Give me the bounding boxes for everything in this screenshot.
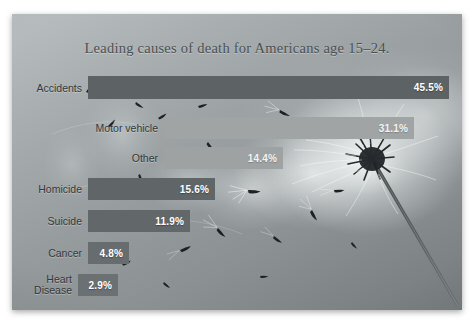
bar-value-cancer-text: 4.8% [99,248,123,259]
bar-value-accidents: 45.5% [414,82,443,93]
bar-label-cancer: Cancer [48,248,82,259]
bar-value-suicide: 11.9% [155,216,184,227]
bar-label-heart-disease-line2: Disease [34,285,72,296]
bar-value-motor-vehicle: 31.1% [379,123,408,134]
bar-heart-disease: 2.9% [78,274,118,296]
bar-homicide: 15.6% [88,178,215,200]
bar-row-motor-vehicle: Motor vehicle 31.1% [164,117,414,139]
bar-value-heart-disease: 2.9% [88,280,112,291]
bar-label-motor-vehicle: Motor vehicle [96,123,158,134]
bar-value-other: 14.4% [248,153,277,164]
bar-row-homicide: Homicide 15.6% [88,178,215,200]
bar-accidents: 45.5% [88,76,449,99]
bar-row-suicide: Suicide 11.9% [88,210,190,232]
bar-label-other: Other [132,153,158,164]
bar-motor-vehicle: 31.1% [164,117,414,139]
bar-row-accidents: Accidents 45.5% [88,76,449,99]
bar-row-other: Other 14.4% [164,147,283,169]
bar-label-heart-disease: Heart Disease [34,274,72,296]
bar-other: 14.4% [164,147,283,169]
screenshot-root: Leading causes of death for Americans ag… [0,0,472,324]
bar-label-homicide: Homicide [38,184,82,195]
bar-chart: Leading causes of death for Americans ag… [12,14,462,310]
bar-row-cancer: Cancer 2.9% 4.8% [88,242,129,264]
bar-suicide: 11.9% [88,210,190,232]
bar-label-accidents: Accidents [36,82,82,93]
chart-title: Leading causes of death for Americans ag… [12,40,462,57]
bar-cancer: 2.9% 4.8% [88,242,129,264]
photo-slide-frame: Leading causes of death for Americans ag… [12,14,462,310]
bar-label-suicide: Suicide [48,216,82,227]
bar-value-homicide: 15.6% [180,184,209,195]
bar-row-heart-disease: Heart Disease 2.9% [78,274,118,296]
